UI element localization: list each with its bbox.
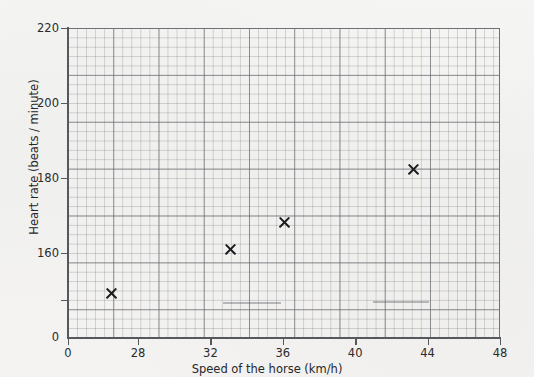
grid-major-lines: [68, 28, 500, 338]
plot-area: [68, 28, 500, 338]
y-tick-unlabeled: [61, 300, 68, 301]
scan-smudge: [373, 301, 429, 303]
x-tick-label-40: 40: [348, 346, 363, 360]
y-tick-200: [61, 103, 68, 104]
grid-minor-lines: [68, 28, 500, 338]
y-origin-label: 0: [15, 330, 59, 344]
x-tick-label-36: 36: [275, 346, 290, 360]
data-point-3: [278, 216, 291, 229]
scatter-plot-figure: 220 200 180 160 0 0 28 32 36 40 44 48 Sp…: [0, 0, 534, 377]
scan-smudge: [223, 302, 281, 304]
y-axis-title: Heart rate (beats / minute): [27, 27, 41, 287]
y-tick-180: [61, 178, 68, 179]
y-tick-160: [61, 253, 68, 254]
data-point-4: [407, 163, 420, 176]
plot-border: [68, 28, 500, 338]
data-point-1: [105, 287, 118, 300]
x-tick-label-44: 44: [420, 346, 435, 360]
x-tick-44: [428, 338, 429, 345]
x-tick-label-28: 28: [131, 346, 146, 360]
x-axis-title: Speed of the horse (km/h): [0, 362, 534, 376]
y-axis-line: [67, 27, 69, 339]
x-tick-32: [210, 338, 211, 345]
x-tick-0: [68, 338, 69, 345]
x-tick-28: [138, 338, 139, 345]
x-tick-40: [355, 338, 356, 345]
x-origin-label: 0: [64, 346, 71, 360]
data-point-2: [224, 243, 237, 256]
x-tick-label-48: 48: [493, 346, 508, 360]
x-tick-label-32: 32: [203, 346, 218, 360]
y-tick-220: [61, 28, 68, 29]
x-tick-48: [500, 338, 501, 345]
x-tick-36: [283, 338, 284, 345]
